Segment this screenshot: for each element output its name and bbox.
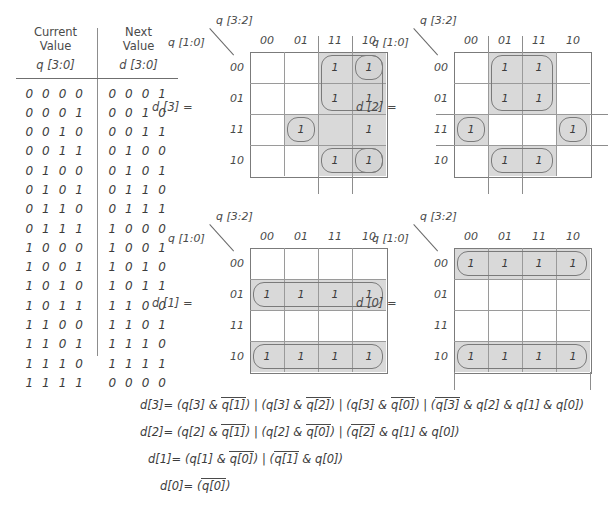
and-operator: & (213, 452, 229, 466)
signal: q[1] (189, 452, 213, 466)
kmap-row-axis-label: q [1:0] (168, 36, 205, 49)
cell-current-value: 0 0 1 0 (14, 125, 97, 144)
kmap-row-axis-label: q [1:0] (168, 232, 205, 245)
kmap-cell (454, 145, 488, 176)
kmap-col-header: 01 (488, 34, 522, 47)
cell-current-value: 1 0 1 1 (14, 299, 97, 318)
kmap-output-label: d [3] = (152, 100, 193, 114)
kmap-cell: 1 (352, 114, 386, 145)
axis-divider-slash (413, 28, 438, 55)
and-operator: & (500, 398, 516, 412)
or-operator: | (258, 452, 269, 466)
cell-current-value: 1 0 1 0 (14, 279, 97, 298)
kmap-row-header: 00 (218, 257, 244, 270)
wrap-line-vertical (318, 36, 319, 52)
signal: q[3] (351, 398, 375, 412)
kmap-col-header: 11 (318, 230, 352, 243)
cell-current-value: 0 1 1 1 (14, 222, 97, 241)
and-operator: & (460, 398, 476, 412)
kmap-cell (556, 310, 590, 341)
cell-current-value: 0 1 0 1 (14, 183, 97, 202)
kmap-cell (352, 248, 386, 279)
kmap-cell: 1 (454, 114, 488, 145)
wrap-line-horizontal (436, 114, 454, 115)
kmap-row-header: 11 (218, 319, 244, 332)
kmap-output-label: d [1] = (152, 296, 193, 310)
and-operator: & (374, 398, 390, 412)
and-operator: & (290, 425, 306, 439)
signal-negated: q[1] (274, 451, 299, 466)
kmap-cell (454, 83, 488, 114)
kmap-cell: 1 (488, 341, 522, 372)
kmap-cell: 1 (352, 52, 386, 83)
and-operator: & (299, 452, 315, 466)
kmap-row-header: 10 (218, 154, 244, 167)
kmap-cell (352, 310, 386, 341)
kmap-cell (250, 248, 284, 279)
kmap-cell (284, 52, 318, 83)
cell-next-value: 0 0 1 1 (97, 125, 180, 144)
kmap-cell (318, 310, 352, 341)
kmap-row-header: 10 (422, 350, 448, 363)
paren: ) (455, 425, 460, 439)
kmap-cell: 1 (454, 248, 488, 279)
kmap-cell: 1 (352, 145, 386, 176)
kmap-col-axis-label: q [3:2] (420, 210, 457, 223)
kmap-cell (250, 83, 284, 114)
kmap-col-axis-label: q [3:2] (216, 210, 253, 223)
wrap-line-horizontal (590, 114, 608, 115)
cell-current-value: 0 0 0 1 (14, 106, 97, 125)
header-next-line1: Next (125, 25, 152, 39)
kmap-cell (284, 248, 318, 279)
kmap-row-header: 00 (218, 61, 244, 74)
kmap-col-header: 10 (556, 230, 590, 243)
and-operator: & (415, 425, 431, 439)
kmap-cell (522, 114, 556, 145)
cell-current-value: 0 0 0 0 (14, 87, 97, 106)
kmap-cell (284, 310, 318, 341)
kmap-cell (488, 114, 522, 145)
table-header-current: Current Value q [3:0] (14, 26, 97, 73)
kmap-col-header: 11 (522, 34, 556, 47)
table-header-next: Next Value d [3:0] (97, 26, 180, 73)
kmap-col-header: 11 (522, 230, 556, 243)
cell-current-value: 1 1 0 1 (14, 337, 97, 356)
wrap-line-vertical (522, 176, 523, 194)
kmap-cell (250, 52, 284, 83)
equation-lhs: d[2]= (140, 425, 177, 439)
wrap-line-vertical (488, 36, 489, 52)
or-operator: | (335, 398, 346, 412)
kmap-cell (250, 145, 284, 176)
kmap-cell: 1 (488, 248, 522, 279)
kmap-col-header: 01 (284, 34, 318, 47)
kmap-cell: 1 (556, 114, 590, 145)
kmap-output-label: d [2] = (356, 100, 397, 114)
kmap-cell (556, 52, 590, 83)
kmap-cell (284, 145, 318, 176)
cell-next-value: 0 1 0 0 (97, 144, 180, 163)
header-current-line1: Current (34, 25, 77, 39)
table-horizontal-rule (16, 78, 178, 79)
or-operator: | (420, 398, 431, 412)
signal: q[2] (266, 425, 290, 439)
wrap-line-vertical (352, 36, 353, 52)
kmap-cell (454, 52, 488, 83)
wrap-line-vertical (522, 36, 523, 52)
kmap-cell: 1 (352, 341, 386, 372)
kmap-row-header: 10 (218, 350, 244, 363)
paren: ) (339, 452, 344, 466)
kmap-row-header: 01 (422, 92, 448, 105)
kmap-cell (318, 114, 352, 145)
signal-negated: q[0] (229, 451, 254, 466)
wrap-line-horizontal (590, 145, 608, 146)
cell-current-value: 0 1 0 0 (14, 164, 97, 183)
signal-negated: q[3] (435, 397, 460, 412)
equation-d0: d[0]= (q[0]) (140, 473, 589, 500)
kmap-cell (250, 114, 284, 145)
wrap-line-horizontal (436, 145, 454, 146)
kmap-cell: 1 (556, 248, 590, 279)
cell-next-value: 0 1 0 1 (97, 164, 180, 183)
signal: q[0] (431, 425, 455, 439)
signal-negated: q[2] (306, 397, 331, 412)
